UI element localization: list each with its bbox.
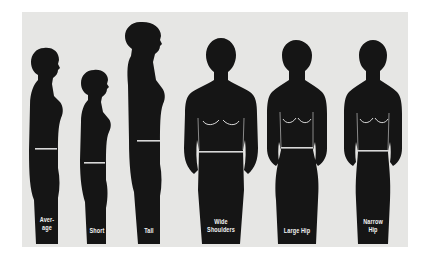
label-average: Aver- age [40, 216, 54, 232]
figure-wide-shoulders [184, 38, 258, 244]
label-narrow-hip: Narrow Hip [363, 218, 383, 234]
label-wide-shoulders: Wide Shoulders [207, 218, 235, 234]
label-short: Short [90, 227, 105, 235]
figure-tall [125, 22, 165, 244]
figure-large-hip [267, 40, 327, 244]
label-large-hip: Large Hip [284, 227, 310, 235]
figure-average [29, 48, 63, 244]
figure-short [80, 70, 111, 244]
figure-narrow-hip [344, 40, 402, 244]
label-tall: Tall [144, 227, 153, 235]
